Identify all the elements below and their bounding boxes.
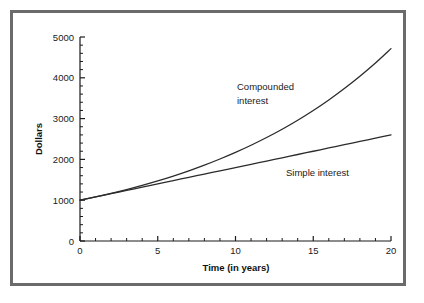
axes-group [80, 37, 391, 241]
compounded-interest-annotation-line1: Compounded [237, 81, 294, 92]
y-tick-label: 0 [69, 236, 74, 247]
x-axis-tick-labels: 05101520 [77, 245, 396, 256]
y-tick-label: 3000 [53, 113, 74, 124]
x-tick-label: 20 [386, 245, 397, 256]
simple-interest-annotation: Simple interest [286, 167, 349, 178]
y-tick-label: 1000 [53, 195, 74, 206]
y-axis-ticks [80, 37, 85, 241]
y-axis-tick-labels: 010002000300040005000 [53, 32, 74, 247]
interest-growth-line-chart: 010002000300040005000 05101520 Time (in … [0, 0, 424, 303]
y-tick-label: 4000 [53, 72, 74, 83]
y-tick-label: 5000 [53, 32, 74, 43]
x-tick-label: 15 [308, 245, 319, 256]
x-axis-title: Time (in years) [203, 262, 270, 273]
x-tick-label: 5 [155, 245, 160, 256]
x-tick-label: 10 [230, 245, 241, 256]
y-axis-title: Dollars [33, 123, 44, 155]
x-axis-ticks [80, 236, 391, 241]
y-tick-label: 2000 [53, 154, 74, 165]
chart-canvas: 010002000300040005000 05101520 Time (in … [0, 0, 424, 303]
compounded-interest-annotation-line2: interest [237, 95, 269, 106]
x-tick-label: 0 [77, 245, 82, 256]
